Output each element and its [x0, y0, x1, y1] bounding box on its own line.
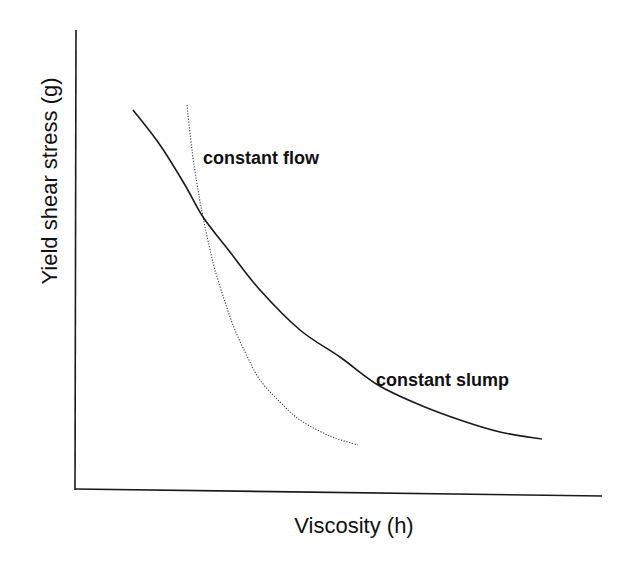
x-axis — [75, 489, 602, 496]
constant-slump-label: constant slump — [376, 370, 509, 390]
chart: constant flow constant slump Viscosity (… — [0, 0, 637, 573]
y-axis — [75, 30, 76, 490]
constant-flow-label: constant flow — [203, 148, 320, 168]
x-axis-label: Viscosity (h) — [294, 513, 413, 538]
y-axis-label: Yield shear stress (g) — [37, 77, 62, 284]
